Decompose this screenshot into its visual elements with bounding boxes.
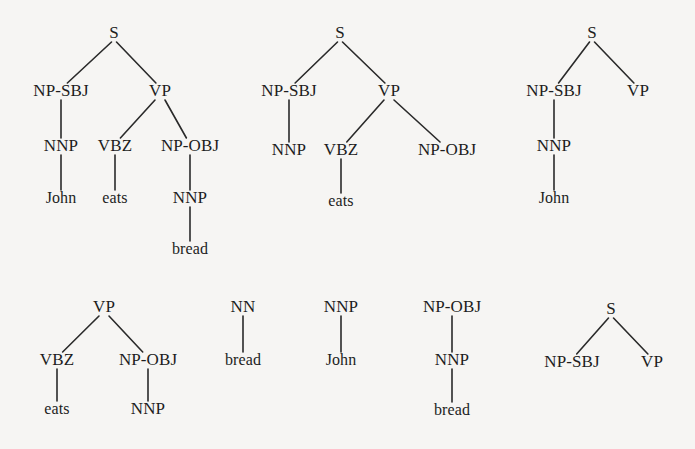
s-skeleton-fragment: SNP-SBJVP <box>544 299 663 371</box>
tree-edge <box>63 316 99 352</box>
tree-leaf-label: bread <box>434 401 470 418</box>
tree-edge <box>117 42 156 83</box>
partial-parse-eats-only: SNP-SBJVPNNPVBZNP-OBJeats <box>261 23 476 209</box>
tree-node-label: NNP <box>44 136 78 155</box>
tree-edge <box>595 42 634 83</box>
tree-node-label: NP-SBJ <box>544 352 600 371</box>
vp-fragment-eats-object: VPVBZNP-OBJeatsNNP <box>40 297 178 418</box>
tree-leaf-label: John <box>539 189 570 206</box>
tree-node-label: NNP <box>173 188 207 207</box>
tree-edge <box>109 316 143 352</box>
full-parse-john-eats-bread: SNP-SBJVPNNPVBZNP-OBJJohneatsNNPbread <box>33 23 219 257</box>
tree-leaf-label: eats <box>44 400 69 417</box>
tree-node-label: NNP <box>131 399 165 418</box>
tree-edges <box>577 318 648 354</box>
tree-node-label: VP <box>149 81 171 100</box>
tree-edge <box>347 100 384 142</box>
tree-node-label: NP-OBJ <box>161 136 220 155</box>
tree-edge <box>394 100 440 142</box>
tree-node-label: NN <box>231 297 256 316</box>
nn-bread-fragment: NNbread <box>225 297 261 368</box>
parse-tree-canvas: SNP-SBJVPNNPVBZNP-OBJJohneatsNNPbreadSNP… <box>0 0 695 449</box>
tree-node-label: NP-OBJ <box>418 140 477 159</box>
tree-node-label: VBZ <box>40 350 74 369</box>
tree-edge <box>165 100 186 138</box>
tree-node-label: VP <box>641 352 663 371</box>
tree-node-label: VP <box>627 81 649 100</box>
tree-node-label: VBZ <box>98 136 132 155</box>
tree-node-label: NNP <box>435 350 469 369</box>
tree-edges <box>554 42 634 190</box>
tree-node-label: VP <box>378 81 400 100</box>
tree-node-label: NP-OBJ <box>423 297 482 316</box>
tree-node-label: NP-OBJ <box>119 350 178 369</box>
tree-node-label: NNP <box>324 297 358 316</box>
tree-edge <box>614 318 648 354</box>
npobj-bread-fragment: NP-OBJNNPbread <box>423 297 482 418</box>
tree-node-label: NP-SBJ <box>261 81 317 100</box>
tree-node-label: VBZ <box>324 140 358 159</box>
nnp-john-fragment: NNPJohn <box>324 297 358 368</box>
tree-node-label: S <box>335 23 345 42</box>
tree-edge <box>67 42 111 83</box>
partial-parse-john-subject: SNP-SBJVPNNPJohn <box>526 23 649 206</box>
tree-leaf-label: John <box>326 351 357 368</box>
tree-node-label: NNP <box>272 140 306 159</box>
tree-leaf-label: John <box>46 189 77 206</box>
tree-leaf-label: bread <box>225 351 261 368</box>
tree-leaf-label: eats <box>102 189 127 206</box>
tree-node-label: NNP <box>537 136 571 155</box>
tree-leaf-label: eats <box>328 192 353 209</box>
tree-edge <box>343 42 385 83</box>
tree-node-label: S <box>606 299 616 318</box>
tree-edge <box>120 100 155 138</box>
tree-node-label: S <box>587 23 597 42</box>
tree-node-label: S <box>109 23 119 42</box>
parse-tree-figure: SNP-SBJVPNNPVBZNP-OBJJohneatsNNPbreadSNP… <box>0 0 695 449</box>
tree-node-label: VP <box>93 297 115 316</box>
tree-edge <box>559 42 590 83</box>
tree-leaf-label: bread <box>172 240 208 257</box>
tree-edge <box>577 318 609 354</box>
tree-node-label: NP-SBJ <box>33 81 89 100</box>
tree-edges <box>289 42 440 193</box>
tree-node-label: NP-SBJ <box>526 81 582 100</box>
tree-edge <box>295 42 337 83</box>
